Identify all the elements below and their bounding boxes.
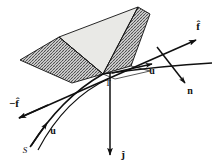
u-left-vector — [30, 123, 47, 147]
curve-left-branch — [31, 74, 103, 146]
label-u-right: u — [149, 65, 155, 76]
label-point-S: S — [23, 145, 28, 155]
label-f-hat-right: f̂ — [196, 20, 200, 32]
label-u-left: u — [50, 125, 56, 136]
wedge-solid — [20, 7, 150, 83]
vector-diagram-svg: f̂ −f̂ u u n ĵ T S — [0, 0, 224, 168]
label-j-hat: ĵ — [120, 148, 125, 160]
label-vertex-T: T — [105, 78, 111, 88]
neg-f-hat-arrow — [19, 105, 48, 118]
label-n-normal: n — [187, 85, 193, 96]
curve-inner-strand — [38, 78, 110, 150]
label-neg-f-hat-left: −f̂ — [9, 97, 20, 109]
figure-container: f̂ −f̂ u u n ĵ T S — [0, 0, 224, 168]
